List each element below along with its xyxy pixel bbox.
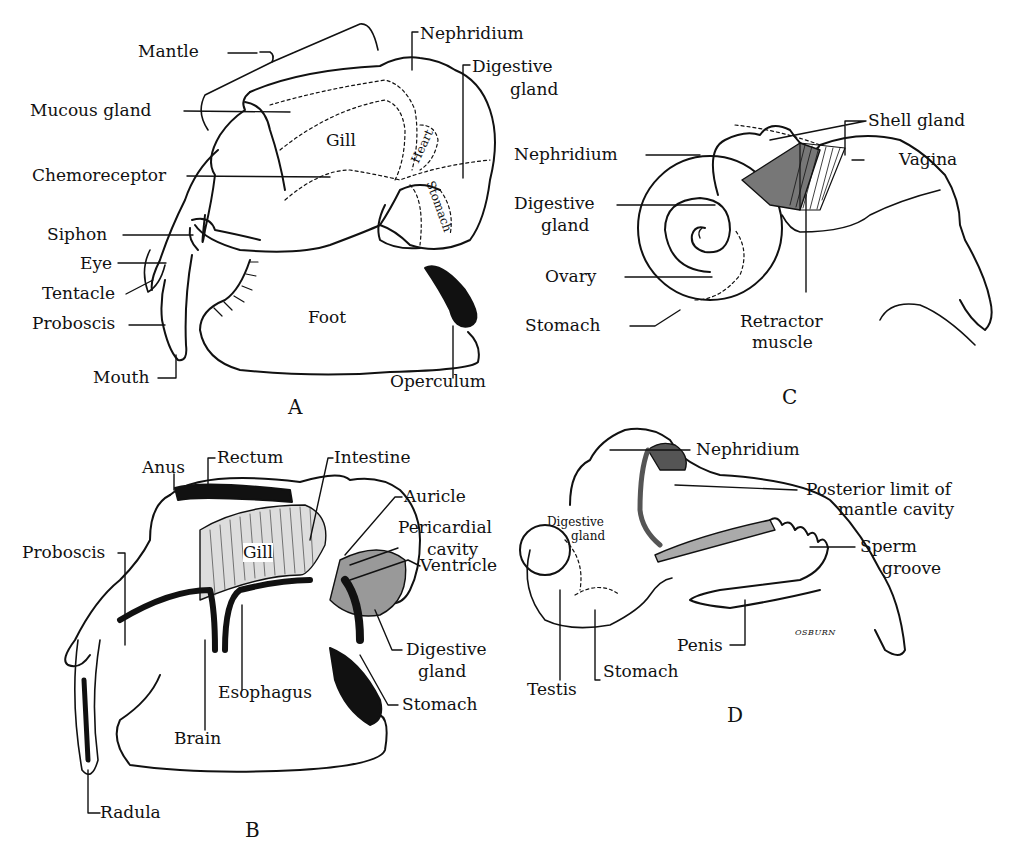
label-b-stomach: Stomach (402, 695, 477, 714)
label-a-mouth: Mouth (93, 368, 149, 387)
label-b-radula: Radula (100, 803, 161, 822)
label-d-stomach: Stomach (603, 662, 678, 681)
label-a-siphon: Siphon (47, 225, 107, 244)
label-b-pericardial-1: Pericardial (398, 518, 492, 537)
label-a-gill: Gill (326, 131, 356, 150)
label-a-operculum: Operculum (390, 372, 486, 391)
label-a-foot: Foot (308, 308, 346, 327)
label-d-posterior-2: mantle cavity (838, 500, 954, 519)
label-b-brain: Brain (174, 729, 221, 748)
label-a-mucous-gland: Mucous gland (30, 101, 151, 120)
label-c-digestive-gland-1: Digestive (514, 194, 595, 213)
label-c-retractor-1: Retractor (740, 312, 823, 331)
label-b-anus: Anus (142, 458, 185, 477)
label-b-digestive-gland-1: Digestive (406, 640, 487, 659)
label-b-rectum: Rectum (217, 448, 283, 467)
artist-signature: OSBURN (795, 628, 836, 637)
label-b-intestine: Intestine (334, 448, 411, 467)
label-d-testis: Testis (527, 680, 577, 699)
label-d-nephridium: Nephridium (696, 440, 800, 459)
label-c-digestive-gland-2: gland (541, 216, 589, 235)
panel-b-drawing (65, 458, 420, 813)
label-d-posterior-1: Posterior limit of (806, 480, 951, 499)
label-a-eye: Eye (80, 254, 112, 273)
label-c-stomach: Stomach (525, 316, 600, 335)
panel-letter-c: C (782, 385, 797, 409)
panel-letter-a: A (288, 395, 302, 419)
label-b-proboscis: Proboscis (22, 543, 105, 562)
label-d-sperm-groove-1: Sperm (860, 537, 917, 556)
label-b-auricle: Auricle (404, 487, 466, 506)
panel-letter-d: D (727, 703, 743, 727)
label-d-sperm-groove-2: groove (882, 559, 941, 578)
snail-anatomy-drawings (0, 0, 1010, 851)
label-c-nephridium: Nephridium (514, 145, 618, 164)
panel-letter-b: B (245, 818, 260, 842)
label-b-gill: Gill (243, 543, 273, 562)
label-d-digestive-gland-2: gland (571, 530, 605, 543)
label-a-digestive-gland-2: gland (510, 80, 558, 99)
label-a-digestive-gland-1: Digestive (472, 57, 553, 76)
label-b-esophagus: Esophagus (218, 683, 312, 702)
label-b-ventricle: Ventricle (420, 556, 497, 575)
label-d-penis: Penis (677, 636, 723, 655)
label-a-proboscis: Proboscis (32, 314, 115, 333)
label-c-ovary: Ovary (545, 267, 596, 286)
label-a-tentacle: Tentacle (42, 284, 115, 303)
label-a-chemoreceptor: Chemoreceptor (32, 166, 166, 185)
label-c-retractor-2: muscle (752, 333, 813, 352)
label-d-digestive-gland-1: Digestive (547, 516, 604, 529)
label-a-nephridium: Nephridium (420, 24, 524, 43)
label-c-vagina: Vagina (899, 150, 957, 169)
label-a-mantle: Mantle (138, 42, 199, 61)
label-b-digestive-gland-2: gland (418, 662, 466, 681)
label-c-shell-gland: Shell gland (868, 111, 965, 130)
